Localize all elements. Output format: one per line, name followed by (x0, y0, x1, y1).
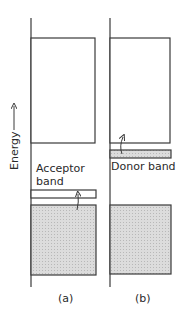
caption-a: (a) (58, 292, 73, 305)
acceptor-label-line1: Acceptor (36, 162, 85, 175)
caption-b: (b) (135, 292, 151, 305)
band-diagram: Energy Acceptor band (a) Donor band (b) (0, 0, 183, 311)
valence-band-a (31, 205, 96, 275)
donor-label: Donor band (111, 160, 176, 173)
energy-label: Energy (8, 131, 21, 170)
acceptor-label-line2: band (36, 175, 64, 188)
donor-band (110, 150, 171, 158)
acceptor-band (31, 190, 96, 198)
conduction-band-a (31, 38, 95, 143)
energy-axis-label: Energy (8, 106, 21, 170)
panel-b: Donor band (b) (110, 18, 176, 305)
conduction-band-b (110, 38, 170, 143)
panel-a: Acceptor band (a) (31, 18, 96, 305)
valence-band-b (110, 205, 171, 274)
